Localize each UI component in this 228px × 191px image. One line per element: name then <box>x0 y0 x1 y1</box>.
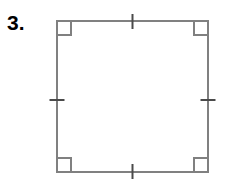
square-outline <box>57 21 208 172</box>
right-angle-mark-top-right <box>194 21 208 35</box>
right-angle-mark-top-left <box>57 21 71 35</box>
figure-canvas: 3. <box>0 0 228 191</box>
right-angle-mark-bottom-right <box>194 158 208 172</box>
square-figure-svg <box>0 0 228 191</box>
right-angle-mark-bottom-left <box>57 158 71 172</box>
